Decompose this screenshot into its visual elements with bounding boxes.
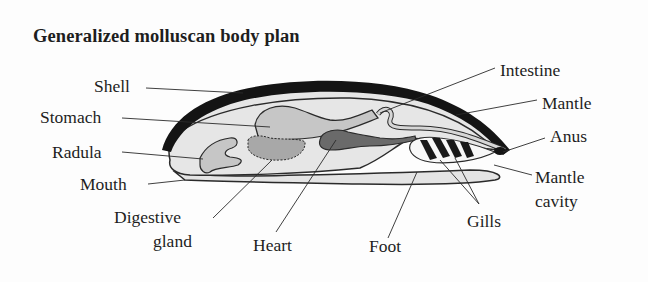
label-mouth: Mouth	[80, 176, 127, 194]
label-gills: Gills	[467, 213, 501, 231]
label-intestine: Intestine	[500, 62, 560, 80]
label-foot: Foot	[369, 238, 401, 256]
label-shell: Shell	[94, 78, 130, 96]
label-mantle: Mantle	[542, 95, 592, 113]
label-digestive-gland-line2: gland	[153, 233, 192, 251]
label-digestive-gland-line1: Digestive	[114, 209, 181, 227]
label-stomach: Stomach	[40, 109, 101, 127]
label-mantle-cavity-line1: Mantle	[535, 169, 585, 187]
label-mantle-cavity-line2: cavity	[535, 193, 578, 211]
label-heart: Heart	[253, 237, 292, 255]
label-anus: Anus	[550, 128, 587, 146]
anus	[494, 147, 506, 155]
label-radula: Radula	[52, 144, 102, 162]
